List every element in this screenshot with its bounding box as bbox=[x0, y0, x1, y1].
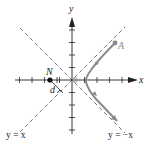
x-axis-arrow-icon bbox=[128, 77, 138, 83]
point-a bbox=[113, 41, 118, 46]
distance-label-d: d bbox=[50, 85, 55, 95]
y-axis bbox=[69, 17, 75, 134]
asymptote-label-right: y = −x bbox=[108, 131, 133, 141]
x-axis-label: x bbox=[139, 75, 143, 85]
asymptote-label-left: y = x bbox=[6, 131, 26, 141]
y-axis-arrow-icon bbox=[69, 17, 75, 27]
point-a-label: A bbox=[118, 41, 124, 51]
y-axis-label: y bbox=[69, 4, 73, 14]
point-n-label: N bbox=[46, 67, 53, 77]
